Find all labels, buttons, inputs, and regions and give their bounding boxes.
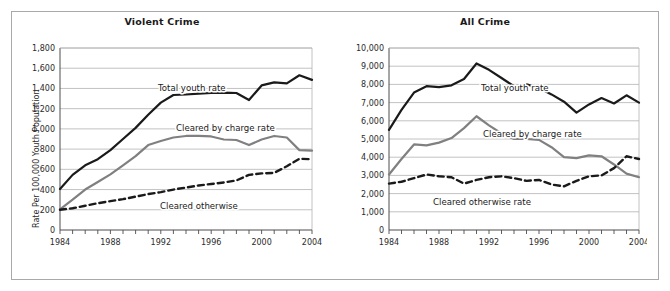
y-axis-tick-label: 8,000 bbox=[361, 80, 384, 89]
y-axis-tick-label: 6,000 bbox=[361, 117, 384, 126]
y-axis-tick-label: 9,000 bbox=[361, 62, 384, 71]
chart-panel-violent-crime: Violent Crime Rate Per 100,000 Youth Pop… bbox=[0, 0, 324, 267]
x-axis-tick-label: 1984 bbox=[50, 238, 70, 247]
series-annotation-2: Cleared by charge rate bbox=[176, 123, 275, 133]
y-axis-tick-label: 0 bbox=[379, 226, 384, 235]
y-axis-tick-label: 3,000 bbox=[361, 171, 384, 180]
y-axis-tick-label: 2,000 bbox=[361, 190, 384, 199]
series-line bbox=[389, 63, 639, 129]
y-axis-tick-label: 1,400 bbox=[32, 84, 55, 93]
chart-panel-all-crime: All Crime Rate Per 100,000 Youth Populat… bbox=[323, 0, 647, 267]
x-axis-tick-label: 1992 bbox=[151, 238, 171, 247]
y-axis-tick-label: 200 bbox=[40, 206, 55, 215]
plot-area-violent-crime: 02004006008001,0001,2001,4001,6001,80019… bbox=[0, 0, 324, 267]
x-axis-tick-label: 2000 bbox=[251, 238, 271, 247]
y-axis-tick-label: 1,800 bbox=[32, 44, 55, 53]
series-line bbox=[389, 156, 639, 186]
series-annotation-1: Total youth rate bbox=[157, 83, 226, 93]
x-axis-tick-label: 1996 bbox=[529, 238, 549, 247]
y-axis-tick-label: 1,600 bbox=[32, 64, 55, 73]
x-axis-tick-label: 1988 bbox=[100, 238, 120, 247]
y-axis-tick-label: 5,000 bbox=[361, 135, 384, 144]
series-annotation-3: Cleared otherwise bbox=[160, 201, 238, 211]
x-axis-tick-label: 1984 bbox=[379, 238, 399, 247]
y-axis-tick-label: 10,000 bbox=[356, 44, 384, 53]
y-axis-tick-label: 7,000 bbox=[361, 99, 384, 108]
y-axis-tick-label: 800 bbox=[40, 145, 55, 154]
x-axis-tick-label: 1996 bbox=[201, 238, 221, 247]
x-axis-tick-label: 1992 bbox=[479, 238, 499, 247]
y-axis-tick-label: 0 bbox=[50, 226, 55, 235]
series-annotation-1: Total youth rate bbox=[480, 83, 549, 93]
plot-area-all-crime: 01,0002,0003,0004,0005,0006,0007,0008,00… bbox=[323, 0, 647, 267]
x-axis-tick-label: 2004 bbox=[629, 238, 647, 247]
series-line bbox=[389, 116, 639, 177]
y-axis-tick-label: 1,000 bbox=[361, 208, 384, 217]
series-annotation-3: Cleared otherwise rate bbox=[433, 197, 531, 207]
figure-root: Violent Crime Rate Per 100,000 Youth Pop… bbox=[0, 0, 670, 291]
series-annotation-2: Cleared by charge rate bbox=[483, 129, 582, 139]
y-axis-tick-label: 4,000 bbox=[361, 153, 384, 162]
x-axis-tick-label: 2000 bbox=[579, 238, 599, 247]
series-line bbox=[60, 136, 312, 209]
y-axis-tick-label: 1,200 bbox=[32, 105, 55, 114]
y-axis-tick-label: 1,000 bbox=[32, 125, 55, 134]
x-axis-tick-label: 2004 bbox=[302, 238, 322, 247]
y-axis-tick-label: 600 bbox=[40, 165, 55, 174]
y-axis-tick-label: 400 bbox=[40, 186, 55, 195]
x-axis-tick-label: 1988 bbox=[429, 238, 449, 247]
